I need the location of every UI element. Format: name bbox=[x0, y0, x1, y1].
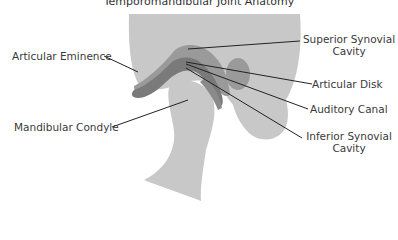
auditory-canal-shape bbox=[226, 58, 250, 90]
label-auditory-canal: Auditory Canal bbox=[310, 103, 388, 115]
mandibular-condyle-shape bbox=[144, 80, 214, 201]
label-inferior-synovial-cavity-line2: Cavity bbox=[300, 142, 398, 154]
label-articular-disk: Articular Disk bbox=[312, 78, 383, 90]
label-articular-eminence: Articular Eminence bbox=[12, 50, 112, 62]
label-superior-synovial-cavity-line1: Superior Synovial bbox=[300, 33, 398, 45]
temporal-lower-lobe bbox=[232, 96, 288, 139]
label-superior-synovial-cavity-line2: Cavity bbox=[300, 45, 398, 57]
label-inferior-synovial-cavity-line1: Inferior Synovial bbox=[300, 130, 398, 142]
label-mandibular-condyle: Mandibular Condyle bbox=[14, 121, 119, 133]
label-superior-synovial-cavity: Superior Synovial Cavity bbox=[300, 33, 398, 57]
label-inferior-synovial-cavity: Inferior Synovial Cavity bbox=[300, 130, 398, 154]
